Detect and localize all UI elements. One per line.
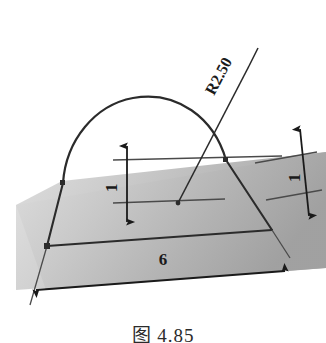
figure-caption: 图 4.85 — [0, 324, 326, 343]
left-height-dimension-label: 1 — [102, 184, 121, 193]
base-left-vertex — [44, 243, 50, 249]
right-height-dimension-label: 1 — [285, 174, 304, 183]
arc-center-point — [176, 201, 181, 206]
sketch-plane — [16, 152, 326, 290]
engineering-sketch: 1 1 6 R2.50 — [0, 0, 326, 343]
figure-container: 1 1 6 R2.50 图 4.85 — [0, 0, 326, 343]
arc-right-endpoint — [223, 157, 228, 162]
radius-leader-tail — [249, 48, 258, 66]
bottom-width-dimension-label: 6 — [159, 250, 168, 269]
arc-left-endpoint — [60, 180, 65, 185]
upper-witness-line — [113, 156, 282, 160]
arc-radius-dimension-label: R2.50 — [202, 54, 236, 97]
